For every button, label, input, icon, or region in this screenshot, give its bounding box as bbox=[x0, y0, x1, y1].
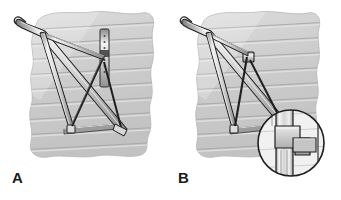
panel-a bbox=[14, 12, 165, 158]
inset-horizontal-arm bbox=[293, 138, 316, 152]
leg-foot-b bbox=[230, 125, 238, 133]
panel-b bbox=[180, 12, 331, 180]
panel-label-a: A bbox=[12, 170, 23, 185]
illustration-canvas bbox=[0, 0, 341, 200]
technical-illustration: A B bbox=[0, 0, 341, 200]
leg-foot-a bbox=[67, 125, 75, 133]
panel-label-b: B bbox=[178, 170, 189, 185]
